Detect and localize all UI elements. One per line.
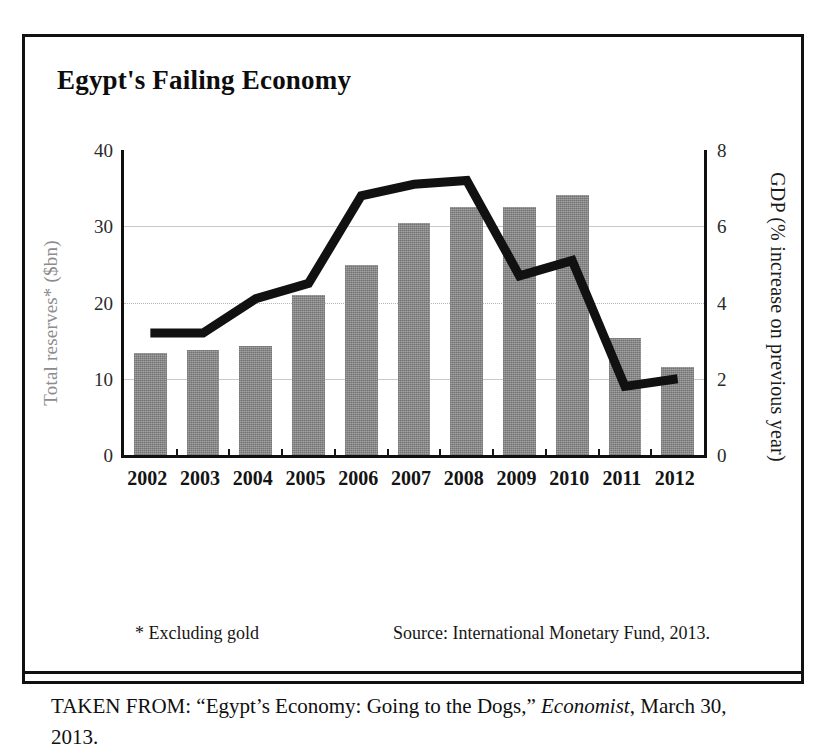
x-axis-label-2006: 2006 (338, 467, 378, 490)
left-tick-label: 20 (94, 293, 113, 312)
bar-2004 (239, 346, 272, 455)
x-axis-labels: 2002200320042005200620072008200920102011… (121, 467, 701, 497)
left-tick-label: 40 (94, 141, 113, 160)
x-axis-label-2011: 2011 (602, 467, 641, 490)
x-axis-label-2004: 2004 (233, 467, 273, 490)
left-axis-title: Total reserves* ($bn) (40, 240, 62, 405)
right-axis-title: GDP (% increase on previous year) (766, 172, 789, 462)
x-tick-mark (387, 449, 389, 458)
x-axis-label-2003: 2003 (180, 467, 220, 490)
footnote-source: Source: International Monetary Fund, 201… (393, 623, 710, 644)
x-tick-mark (439, 449, 441, 458)
footnote-excluding-gold: * Excluding gold (135, 623, 259, 644)
figure-frame: Egypt's Failing Economy Total reserves* … (22, 34, 804, 684)
caption-text: TAKEN FROM: “Egypt’s Economy: Going to t… (51, 691, 775, 748)
right-tick-label: 6 (717, 217, 727, 236)
bar-2003 (187, 350, 220, 455)
x-tick-mark (281, 449, 283, 458)
bar-2012 (661, 367, 694, 455)
x-tick-mark (650, 449, 652, 458)
right-tick-label: 0 (717, 446, 727, 465)
right-tick-label: 4 (717, 293, 727, 312)
footnote-row: * Excluding gold Source: International M… (25, 623, 801, 653)
bar-2011 (609, 338, 642, 455)
x-axis-label-2007: 2007 (391, 467, 431, 490)
plot-area: 010203040 02468 (121, 150, 707, 458)
right-tick-label: 2 (717, 369, 727, 388)
bar-2002 (134, 353, 167, 455)
chart-plot-wrapper: Total reserves* ($bn) GDP (% increase on… (25, 127, 801, 527)
bar-2008 (450, 207, 483, 455)
x-axis-label-2008: 2008 (444, 467, 484, 490)
bar-2005 (292, 295, 325, 455)
bar-2006 (345, 265, 378, 455)
x-axis-label-2005: 2005 (286, 467, 326, 490)
x-tick-mark (598, 449, 600, 458)
x-tick-mark (334, 449, 336, 458)
left-tick-label: 10 (94, 369, 113, 388)
bar-2007 (398, 223, 431, 455)
caption-publication: Economist (541, 694, 630, 718)
page-title: Egypt's Failing Economy (57, 65, 351, 96)
bar-2010 (556, 195, 589, 455)
x-tick-mark (545, 449, 547, 458)
right-tick-label: 8 (717, 141, 727, 160)
left-tick-label: 0 (104, 446, 114, 465)
bar-2009 (503, 207, 536, 455)
x-axis-label-2012: 2012 (655, 467, 695, 490)
x-tick-mark (492, 449, 494, 458)
x-axis-label-2002: 2002 (127, 467, 167, 490)
left-tick-label: 30 (94, 217, 113, 236)
caption-prefix: TAKEN FROM: “Egypt’s Economy: Going to t… (51, 694, 541, 718)
caption-divider (25, 671, 801, 674)
x-axis-label-2010: 2010 (549, 467, 589, 490)
x-axis-label-2009: 2009 (496, 467, 536, 490)
x-tick-mark (176, 449, 178, 458)
x-tick-mark (228, 449, 230, 458)
